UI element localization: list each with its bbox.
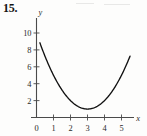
y-tick-label-8: 8: [27, 46, 31, 55]
x-axis-label: x: [135, 114, 140, 123]
figure-container: 15. 10 8 6 4 2 0 1 2 3 4 5 y x: [0, 0, 147, 136]
y-axis-label: y: [38, 8, 43, 17]
x-tick-label-5: 5: [119, 124, 123, 133]
parabola-plot: 10 8 6 4 2 0 1 2 3 4 5 y x: [0, 0, 147, 136]
x-tick-label-3: 3: [85, 124, 89, 133]
y-tick-label-10: 10: [23, 29, 31, 38]
y-tick-label-4: 4: [27, 80, 32, 89]
y-tick-label-6: 6: [27, 63, 31, 72]
x-tick-label-4: 4: [102, 124, 107, 133]
x-tick-label-2: 2: [68, 124, 72, 133]
x-tick-label-0: 0: [34, 124, 38, 133]
x-tick-label-1: 1: [51, 124, 55, 133]
y-tick-label-2: 2: [27, 97, 31, 106]
parabola-curve: [40, 43, 130, 109]
